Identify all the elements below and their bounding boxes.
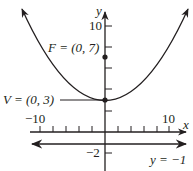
diagram-canvas: y x 10 −2 −10 10 F = (0, 7) V = (0, 3) y… (0, 0, 193, 171)
y-axis-label: y (94, 3, 102, 18)
y-tick-label-neg2: −2 (86, 145, 100, 160)
directrix-label: y = −1 (148, 152, 186, 167)
parabola-diagram: y x 10 −2 −10 10 F = (0, 7) V = (0, 3) y… (0, 0, 193, 171)
vertex-label: V = (0, 3) (3, 92, 54, 107)
x-tick-label-neg10: −10 (25, 111, 45, 126)
y-tick-label-10: 10 (89, 18, 102, 33)
x-tick-label-10: 10 (162, 111, 175, 126)
focus-label: F = (0, 7) (47, 40, 99, 55)
focus-point (102, 54, 107, 59)
y-axis-ticks (105, 26, 112, 153)
x-axis-label: x (182, 117, 189, 132)
